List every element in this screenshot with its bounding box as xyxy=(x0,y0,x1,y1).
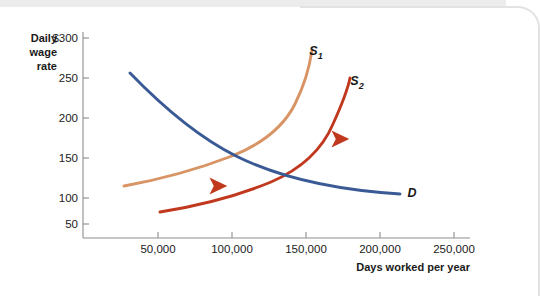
supply-curve-s1 xyxy=(124,50,312,186)
curve-label-d: D xyxy=(407,186,416,200)
x-tick-label-200000: 200,000 xyxy=(359,243,401,255)
curve-label-s2: S2 xyxy=(350,74,363,91)
y-axis-ticks xyxy=(83,38,89,224)
x-tick-label-100000: 100,000 xyxy=(211,243,253,255)
y-tick-label-50: 50 xyxy=(65,218,78,230)
y-tick-label-250: 250 xyxy=(59,72,78,84)
y-axis-title-line-2: wage xyxy=(28,46,57,58)
curve-label-s2-subscript: 2 xyxy=(358,81,364,91)
y-axis-title-line-3: rate xyxy=(37,60,57,72)
x-axis-ticks xyxy=(158,232,454,238)
y-axis-title-line-1: Daily xyxy=(31,32,58,44)
y-tick-label-100: 100 xyxy=(59,192,78,204)
x-tick-label-150000: 150,000 xyxy=(285,243,327,255)
svg-text:S2: S2 xyxy=(350,74,363,91)
y-tick-label-200: 200 xyxy=(59,112,78,124)
x-axis-title: Days worked per year xyxy=(356,261,470,273)
y-axis-title: Daily wage rate xyxy=(28,32,57,72)
axes-group xyxy=(83,32,470,238)
x-axis-tick-labels: 50,000 100,000 150,000 200,000 250,000 xyxy=(140,243,474,255)
curve-label-s1-subscript: 1 xyxy=(318,51,323,61)
x-tick-label-250000: 250,000 xyxy=(433,243,475,255)
y-tick-label-150: 150 xyxy=(59,152,78,164)
x-tick-label-50000: 50,000 xyxy=(140,243,175,255)
